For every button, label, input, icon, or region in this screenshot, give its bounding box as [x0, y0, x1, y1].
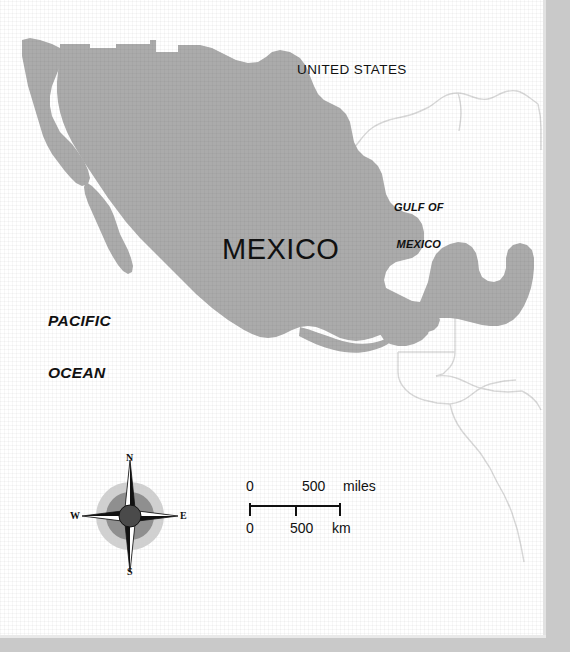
compass-rose: N S W E [70, 452, 190, 580]
label-mexico: MEXICO [222, 233, 339, 265]
scale-bar-rule [246, 502, 386, 520]
compass-label-south: S [127, 566, 133, 577]
scale-miles-end: 500 [302, 478, 325, 494]
nicaragua-outline [450, 404, 497, 482]
bottom-frame-band [0, 638, 570, 652]
compass-rose-graphic [70, 452, 190, 580]
compass-label-north: N [126, 452, 133, 463]
label-gulf-line2: MEXICO [394, 238, 444, 250]
central-america-coast-outline [497, 482, 524, 562]
gulf-coast-southeast-outline [538, 104, 541, 150]
isla-tiburon [84, 126, 92, 136]
label-pacific-ocean: PACIFIC OCEAN [48, 277, 111, 416]
label-united-states: UNITED STATES [297, 62, 407, 77]
scale-km-unit: km [332, 520, 351, 536]
isla-angel-de-la-guarda [70, 97, 78, 115]
scale-miles-unit: miles [343, 478, 376, 494]
compass-label-east: E [180, 510, 187, 521]
right-frame-band [546, 0, 570, 652]
label-pacific-line2: OCEAN [48, 364, 111, 381]
scale-km-start: 0 [246, 520, 254, 536]
florida-coast-outline [458, 93, 461, 131]
label-gulf-of-mexico: GULF OF MEXICO [394, 176, 444, 275]
map-page: UNITED STATES MEXICO GULF OF MEXICO PACI… [0, 0, 570, 652]
caribbean-coast-outline [522, 391, 541, 410]
compass-hub [119, 505, 141, 527]
map-canvas[interactable]: UNITED STATES MEXICO GULF OF MEXICO PACI… [0, 0, 546, 638]
scale-miles-start: 0 [246, 478, 254, 494]
compass-label-west: W [70, 510, 80, 521]
belize-outline [436, 318, 455, 376]
scale-km-end: 500 [290, 520, 313, 536]
label-gulf-line1: GULF OF [394, 201, 444, 213]
guatemala-south-outline [398, 352, 450, 404]
scale-bar: 0 500 miles 0 500 km [246, 478, 386, 544]
label-pacific-line1: PACIFIC [48, 312, 111, 329]
